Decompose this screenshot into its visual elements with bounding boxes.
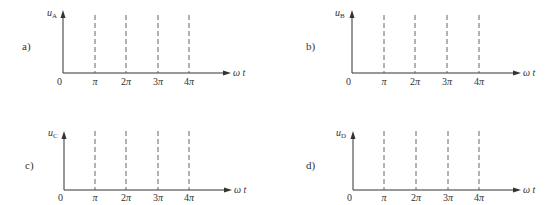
tick-pi: π: [92, 192, 97, 203]
tick-4pi: 4π: [474, 76, 484, 87]
tick-4pi: 4π: [474, 192, 484, 203]
panel-label: c): [25, 159, 34, 171]
y-axis-label: uB: [335, 7, 345, 20]
axes-d: [270, 105, 547, 205]
panel-label: b): [306, 40, 315, 52]
origin-label: 0: [57, 76, 62, 87]
axes-a: [0, 0, 273, 102]
tick-2pi: 2π: [121, 192, 131, 203]
axes-c: [0, 105, 273, 205]
y-axis-label: uC: [48, 127, 58, 140]
panel-d: d) uD 0 π 2π 3π 4π ω t: [270, 105, 543, 205]
panel-b: b) uB 0 π 2π 3π 4π ω t: [270, 0, 543, 102]
panel-c: c) uC 0 π 2π 3π 4π ω t: [0, 105, 273, 205]
tick-2pi: 2π: [410, 76, 420, 87]
y-axis-label: uA: [47, 7, 57, 20]
tick-3pi: 3π: [442, 76, 452, 87]
tick-2pi: 2π: [411, 192, 421, 203]
tick-pi: π: [92, 76, 97, 87]
origin-label: 0: [347, 192, 352, 203]
panel-a: a) uA 0 π 2π 3π 4π ω t: [0, 0, 273, 102]
tick-2pi: 2π: [121, 76, 131, 87]
panel-label: a): [22, 40, 31, 52]
tick-3pi: 3π: [153, 192, 163, 203]
origin-label: 0: [58, 192, 63, 203]
origin-label: 0: [346, 76, 351, 87]
panel-label: d): [306, 159, 315, 171]
x-axis-label: ω t: [523, 67, 535, 78]
tick-pi: π: [381, 192, 386, 203]
tick-3pi: 3π: [443, 192, 453, 203]
tick-3pi: 3π: [153, 76, 163, 87]
tick-4pi: 4π: [184, 76, 194, 87]
tick-4pi: 4π: [184, 192, 194, 203]
tick-pi: π: [381, 76, 386, 87]
x-axis-label: ω t: [233, 67, 245, 78]
x-axis-label: ω t: [234, 184, 246, 195]
y-axis-label: uD: [336, 127, 346, 140]
x-axis-label: ω t: [523, 184, 535, 195]
